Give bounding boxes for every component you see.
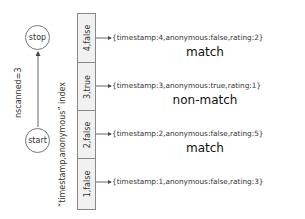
non-match-verdict: non-match [173, 93, 238, 107]
stop-label: stop [29, 33, 46, 42]
index-box: 4,false 3,true 2,false 1,false [77, 13, 96, 210]
index-name-label: “timestamp,anonymous” index [58, 82, 67, 207]
document: {timestamp:4,anonymous:false,rating:2} [112, 33, 263, 42]
match-verdict: match [186, 45, 224, 59]
nscanned-label: nscanned=3 [14, 68, 23, 118]
start-label: start [28, 136, 47, 145]
index-entry: 2,false [78, 111, 95, 159]
index-entry: 1,false [78, 159, 95, 209]
stop-node: stop [25, 25, 50, 50]
match-verdict: match [186, 141, 224, 155]
document: {timestamp:3,anonymous:true,rating:1} [112, 81, 261, 90]
document: {timestamp:2,anonymous:false,rating:5} [112, 129, 263, 138]
index-key: 3,true [82, 74, 91, 98]
index-key: 2,false [82, 121, 91, 148]
index-entry: 4,false [78, 14, 95, 63]
document: {timestamp:1,anonymous:false,rating:3} [112, 177, 263, 186]
index-key: 1,false [82, 171, 91, 198]
start-node: start [25, 128, 50, 153]
index-entry: 3,true [78, 63, 95, 111]
index-key: 4,false [82, 25, 91, 52]
